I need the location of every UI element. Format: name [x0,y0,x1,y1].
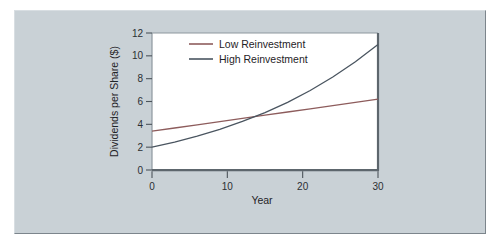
y-tick-label-6: 6 [137,96,143,107]
x-tick-label-10: 10 [222,181,234,192]
y-tick-label-10: 10 [132,50,144,61]
y-tick-label-0: 0 [137,165,143,176]
y-axis-tick-labels: 12 10 8 6 4 2 0 [132,28,144,176]
y-tick-label-2: 2 [137,142,143,153]
x-axis-tick-labels: 0 10 20 30 [149,181,384,192]
x-tick-label-0: 0 [149,181,155,192]
legend-label-low-reinvestment: Low Reinvestment [219,38,305,50]
figure-root: 12 10 8 6 4 2 0 0 10 20 30 Year Dividend… [0,0,501,247]
y-axis-title: Dividends per Share ($) [108,46,120,157]
y-tick-label-12: 12 [132,28,144,39]
x-axis-title: Year [251,194,273,206]
y-axis-ticks [146,33,152,170]
legend-label-high-reinvestment: High Reinvestment [219,53,308,65]
y-tick-label-8: 8 [137,73,143,84]
x-tick-label-20: 20 [297,181,309,192]
x-tick-label-30: 30 [372,181,384,192]
y-tick-label-4: 4 [137,119,143,130]
x-axis-ticks [152,171,378,178]
line-chart: 12 10 8 6 4 2 0 0 10 20 30 Year Dividend… [0,0,501,247]
